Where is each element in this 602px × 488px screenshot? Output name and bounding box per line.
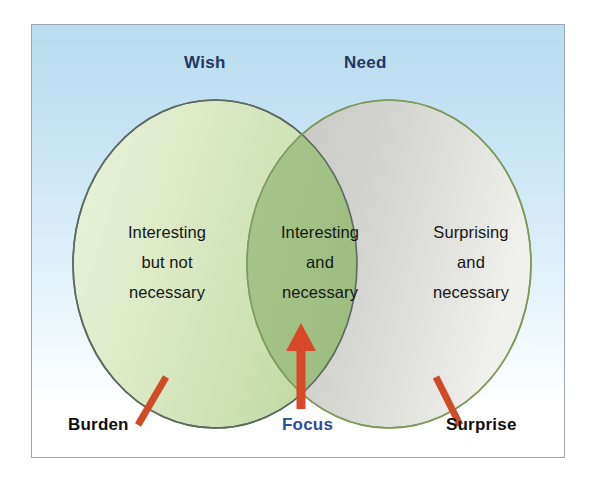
region-label-wish-only: Interesting but not necessary: [87, 217, 247, 307]
region-label-wish-line2: but not: [87, 247, 247, 277]
callout-label-surprise: Surprise: [446, 415, 517, 435]
diagram-frame: Wish Need Interesting but not necessary …: [31, 24, 565, 458]
region-label-focus-line2: and: [256, 247, 384, 277]
diagram-canvas: Wish Need Interesting but not necessary …: [0, 0, 602, 488]
callout-label-focus: Focus: [282, 415, 333, 435]
region-label-intersection: Interesting and necessary: [256, 217, 384, 307]
region-label-wish-line1: Interesting: [87, 217, 247, 247]
region-label-need-only: Surprising and necessary: [396, 217, 546, 307]
region-label-need-line2: and: [396, 247, 546, 277]
set-title-need: Need: [344, 53, 387, 73]
callout-label-burden: Burden: [68, 415, 129, 435]
region-label-focus-line1: Interesting: [256, 217, 384, 247]
region-label-focus-line3: necessary: [256, 277, 384, 307]
region-label-wish-line3: necessary: [87, 277, 247, 307]
set-title-wish: Wish: [184, 53, 226, 73]
region-label-need-line1: Surprising: [396, 217, 546, 247]
region-label-need-line3: necessary: [396, 277, 546, 307]
